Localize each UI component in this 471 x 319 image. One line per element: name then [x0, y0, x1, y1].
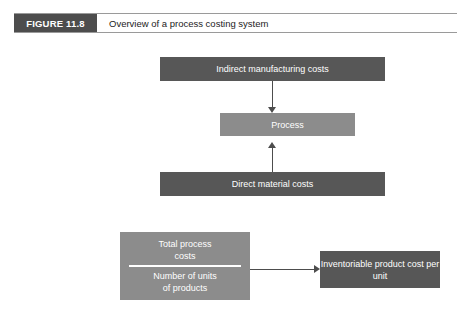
connector-direct-to-process	[272, 148, 273, 172]
formula-denominator-line1: Number of units	[126, 270, 244, 282]
node-indirect-manufacturing-costs: Indirect manufacturing costs	[160, 57, 385, 81]
formula-denominator-line2: of products	[126, 282, 244, 294]
figure-number-badge: FIGURE 11.8	[14, 14, 97, 32]
arrowhead-up-icon	[268, 142, 276, 148]
connector-indirect-to-process	[272, 81, 273, 107]
header-bottom-rule	[14, 32, 457, 33]
figure-root: FIGURE 11.8 Overview of a process costin…	[0, 0, 471, 319]
node-cost-per-unit-formula: Total process costs Number of units of p…	[120, 232, 250, 300]
formula-numerator-line2: costs	[126, 250, 244, 262]
figure-title: Overview of a process costing system	[109, 14, 268, 32]
connector-formula-to-result	[250, 269, 314, 270]
node-inventoriable-product-cost-per-unit: Inventoriable product cost per unit	[320, 251, 440, 288]
formula-numerator-line1: Total process	[126, 238, 244, 250]
node-process: Process	[220, 113, 355, 136]
node-direct-material-costs: Direct material costs	[160, 172, 385, 196]
figure-header: FIGURE 11.8 Overview of a process costin…	[14, 13, 457, 32]
formula-division-bar	[129, 265, 241, 267]
